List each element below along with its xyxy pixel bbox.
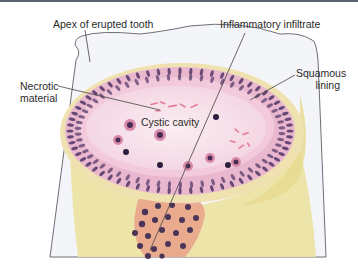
diagram-frame: Apex of erupted tooth Inflammatory infil… bbox=[0, 0, 358, 275]
label-cystic-cavity: Cystic cavity bbox=[141, 116, 199, 128]
cyst-illustration bbox=[0, 0, 358, 275]
label-squamous-line2: lining bbox=[296, 79, 340, 91]
label-necrotic-line1: Necrotic bbox=[20, 80, 59, 92]
label-necrotic-line2: material bbox=[20, 92, 59, 104]
label-inflammatory-infiltrate: Inflammatory infiltrate bbox=[220, 18, 320, 30]
label-apex: Apex of erupted tooth bbox=[53, 18, 153, 30]
label-squamous-line1: Squamous bbox=[296, 67, 340, 79]
label-squamous: Squamous lining bbox=[296, 67, 340, 91]
label-necrotic: Necrotic material bbox=[20, 80, 59, 104]
